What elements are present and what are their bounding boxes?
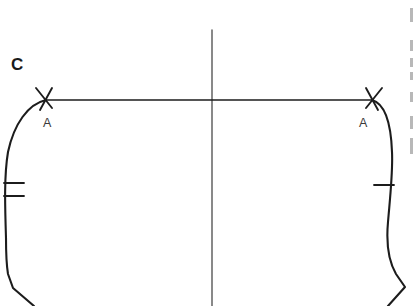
- pattern-piece-label: C: [11, 56, 23, 73]
- right-seam-edge: [372, 100, 405, 306]
- left-balance-notch-group: [4, 183, 24, 196]
- notch-label-right: A: [359, 117, 367, 130]
- left-seam-edge: [5, 100, 46, 306]
- pattern-diagram-canvas: C A A: [0, 0, 416, 306]
- pattern-linework: [0, 0, 416, 306]
- notch-label-left: A: [43, 117, 51, 130]
